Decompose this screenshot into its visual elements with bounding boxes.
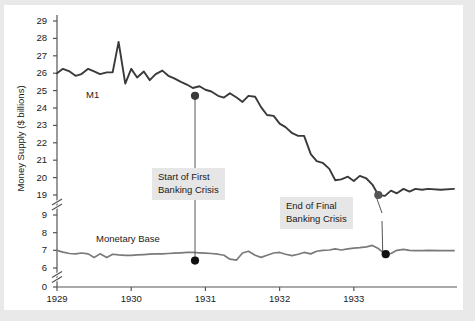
y-tick-19: 19	[25, 190, 47, 200]
annotation-end-line2: Banking Crisis	[286, 213, 347, 226]
y-tick-22: 22	[25, 138, 47, 148]
y-tick-23: 23	[25, 120, 47, 130]
y-tick-26: 26	[25, 68, 47, 78]
data-marker	[382, 250, 390, 258]
annotation-start-line1: Start of First	[158, 171, 219, 184]
y-tick-8: 8	[25, 228, 47, 238]
leader-line-end-lower	[382, 221, 383, 252]
x-tick-1929: 1929	[37, 294, 77, 304]
y-tick-0: 0	[25, 282, 47, 292]
y-tick-28: 28	[25, 33, 47, 43]
y-tick-24: 24	[25, 103, 47, 113]
annotation-start-first-banking-crisis: Start of First Banking Crisis	[152, 168, 225, 200]
y-axis-title: Money Supply ($ billions)	[15, 69, 26, 209]
y-tick-20: 20	[25, 173, 47, 183]
leader-line-end-upper	[376, 197, 382, 213]
data-marker	[191, 92, 199, 100]
x-tick-1933: 1933	[334, 294, 374, 304]
plot-area: Money Supply ($ billions) 19202122232425…	[4, 5, 463, 310]
series-line-m1	[57, 42, 454, 196]
series-label-m1: M1	[86, 89, 99, 100]
y-tick-7: 7	[25, 245, 47, 255]
series-line-monetary-base	[57, 245, 454, 260]
x-tick-1931: 1931	[185, 294, 225, 304]
x-tick-1930: 1930	[111, 294, 151, 304]
annotation-end-line1: End of Final	[286, 200, 347, 213]
y-tick-27: 27	[25, 51, 47, 61]
y-tick-25: 25	[25, 86, 47, 96]
y-tick-21: 21	[25, 155, 47, 165]
page-band-right	[463, 0, 475, 321]
x-tick-1932: 1932	[260, 294, 300, 304]
chart-screenshot: Money Supply ($ billions) 19202122232425…	[0, 0, 475, 321]
chart-canvas	[4, 5, 463, 310]
data-marker	[191, 256, 199, 264]
annotation-start-line2: Banking Crisis	[158, 184, 219, 197]
y-tick-29: 29	[25, 16, 47, 26]
y-tick-9: 9	[25, 210, 47, 220]
y-tick-6: 6	[25, 263, 47, 273]
data-marker	[374, 191, 382, 199]
series-label-monetary-base: Monetary Base	[96, 233, 160, 244]
annotation-end-final-banking-crisis: End of Final Banking Crisis	[280, 197, 353, 229]
page-band-bottom	[0, 310, 475, 321]
